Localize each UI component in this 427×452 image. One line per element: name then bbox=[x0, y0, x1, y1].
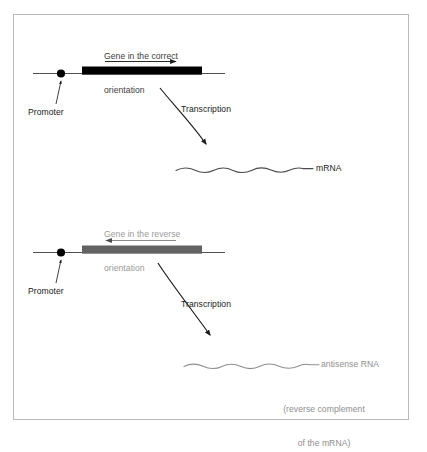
caption-correct-line1: Gene in the correct bbox=[104, 51, 178, 62]
promoter-leader-top bbox=[56, 81, 61, 104]
mrna-label: mRNA bbox=[316, 163, 342, 174]
antisense-rna-label: antisense RNA bbox=[321, 359, 379, 370]
promoter-label-bottom: Promoter bbox=[28, 286, 64, 297]
promoter-dot-bottom bbox=[57, 248, 65, 256]
promoter-leader-bottom bbox=[56, 260, 61, 283]
caption-reverse-line1: Gene in the reverse bbox=[104, 229, 180, 240]
caption-correct-orientation: Gene in the correct orientation bbox=[104, 28, 178, 119]
promoter-dot-top bbox=[57, 69, 65, 77]
antisense-rna-note: (reverse complement of the mRNA) bbox=[252, 381, 396, 452]
antisense-rna-squiggle bbox=[184, 364, 319, 368]
caption-correct-line2: orientation bbox=[104, 85, 178, 96]
transcription-label-bottom: Transcription bbox=[181, 299, 231, 310]
transcription-label-top: Transcription bbox=[181, 104, 231, 115]
antisense-note-line2: of the mRNA) bbox=[252, 438, 396, 449]
promoter-label-top: Promoter bbox=[28, 107, 64, 118]
caption-reverse-orientation: Gene in the reverse orientation bbox=[104, 206, 180, 297]
caption-reverse-line2: orientation bbox=[104, 263, 180, 274]
antisense-note-line1: (reverse complement bbox=[252, 404, 396, 415]
mrna-squiggle bbox=[176, 168, 313, 172]
